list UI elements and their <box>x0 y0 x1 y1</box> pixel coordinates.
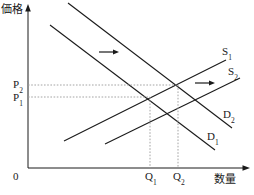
curve-label-d2: D2 <box>223 109 235 123</box>
x-axis <box>28 165 250 171</box>
x-axis-label: 数量 <box>214 174 236 185</box>
curve-s2 <box>105 78 240 144</box>
quantity-tick-q2-base: Q <box>173 170 181 182</box>
curve-s1 <box>64 60 226 141</box>
curve-label-d2-subscript: 2 <box>231 116 235 125</box>
curve-label-d1-base: D <box>207 130 215 142</box>
origin-label: 0 <box>13 171 19 182</box>
y-axis <box>25 4 31 168</box>
quantity-tick-q2: Q2 <box>173 171 185 185</box>
quantity-tick-q1: Q1 <box>145 171 157 185</box>
curve-label-s2-subscript: 2 <box>234 73 238 82</box>
supply-shift-arrow-icon <box>195 80 215 85</box>
price-tick-p1-subscript: 1 <box>19 99 23 108</box>
quantity-tick-q1-base: Q <box>145 170 153 182</box>
quantity-tick-q1-subscript: 1 <box>153 178 157 187</box>
curve-label-s2: S2 <box>228 66 238 80</box>
price-tick-p1: P1 <box>13 92 23 106</box>
supply-demand-chart: 価格 数量 0 P2 P1 Q1 Q2 S1 S2 D2 D1 <box>0 0 254 195</box>
curve-label-s1-subscript: 1 <box>228 53 232 62</box>
demand-shift-arrow-icon <box>99 49 119 54</box>
y-axis-label: 価格 <box>1 4 23 15</box>
curve-d2 <box>68 3 232 128</box>
curve-label-d2-base: D <box>223 108 231 120</box>
curve-label-s1: S1 <box>222 46 232 60</box>
curve-label-d1: D1 <box>207 131 219 145</box>
quantity-tick-q2-subscript: 2 <box>181 178 185 187</box>
chart-canvas <box>0 0 254 195</box>
curve-label-d1-subscript: 1 <box>215 138 219 147</box>
curve-d1 <box>50 25 215 150</box>
